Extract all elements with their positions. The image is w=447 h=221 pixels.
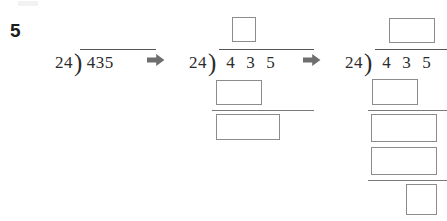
dividend-value: 435 xyxy=(374,54,437,71)
division-vinculum xyxy=(219,49,314,50)
divisor-value: 24 xyxy=(55,54,73,71)
quotient-box-1[interactable] xyxy=(389,18,435,43)
division-expression: 24) 435 xyxy=(189,54,281,71)
divisor-value: 24 xyxy=(345,54,363,71)
arrow-right-icon xyxy=(147,53,165,67)
remainder-box-1[interactable] xyxy=(371,114,437,142)
quotient-box-1[interactable] xyxy=(232,17,256,42)
division-expression: 24)435 xyxy=(55,54,114,71)
dividend-digit: 5 xyxy=(417,54,437,71)
division-bracket-icon: ) xyxy=(73,54,84,71)
dividend-value: 435 xyxy=(218,54,281,71)
dividend-digit: 5 xyxy=(261,54,281,71)
page-title: 5 xyxy=(10,21,21,40)
dividend-digit: 4 xyxy=(377,54,397,71)
product-box-1[interactable] xyxy=(216,80,262,105)
dividend-value: 435 xyxy=(84,54,114,71)
subtraction-rule xyxy=(368,180,447,181)
page-scan-artifact xyxy=(18,1,38,6)
product-box-2[interactable] xyxy=(371,147,437,175)
subtraction-rule xyxy=(212,110,314,111)
dividend-digit: 3 xyxy=(397,54,417,71)
division-expression: 24) 435 xyxy=(345,54,437,71)
division-vinculum xyxy=(80,49,156,50)
dividend-digit: 4 xyxy=(221,54,241,71)
dividend-digit: 3 xyxy=(241,54,261,71)
product-box-1[interactable] xyxy=(372,79,418,105)
division-bracket-icon: ) xyxy=(363,54,374,71)
division-vinculum xyxy=(375,49,447,50)
remainder-box-2[interactable] xyxy=(406,184,437,215)
divisor-value: 24 xyxy=(189,54,207,71)
division-bracket-icon: ) xyxy=(207,54,218,71)
remainder-box-1[interactable] xyxy=(216,114,280,140)
arrow-right-icon xyxy=(303,53,321,67)
subtraction-rule xyxy=(368,110,447,111)
